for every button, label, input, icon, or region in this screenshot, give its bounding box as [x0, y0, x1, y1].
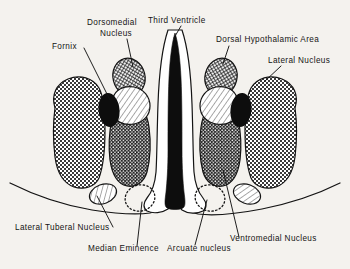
label-dorsomedial-nucleus-line1: Dorsomedial — [87, 18, 137, 27]
lateral-nucleus-left — [54, 77, 106, 188]
lateral-nucleus-right — [245, 77, 297, 188]
label-median-eminence: Median Eminence — [88, 244, 159, 253]
label-ventromedial-nucleus: Ventromedial Nucleus — [230, 234, 317, 243]
hypothalamus-coronal-section: Fornix Dorsomedial Nucleus Third Ventric… — [0, 0, 350, 269]
label-dorsomedial-nucleus-line2: Nucleus — [100, 29, 132, 38]
label-third-ventricle: Third Ventricle — [148, 16, 206, 25]
figure-canvas: Fornix Dorsomedial Nucleus Third Ventric… — [0, 0, 350, 269]
label-dorsal-hypothalamic-area: Dorsal Hypothalamic Area — [216, 35, 319, 44]
label-arcuate-nucleus: Arcuate nucleus — [167, 244, 231, 253]
label-fornix: Fornix — [52, 42, 77, 51]
label-lateral-nucleus: Lateral Nucleus — [268, 56, 330, 65]
label-lateral-tuberal-nucleus: Lateral Tuberal Nucleus — [15, 223, 110, 232]
